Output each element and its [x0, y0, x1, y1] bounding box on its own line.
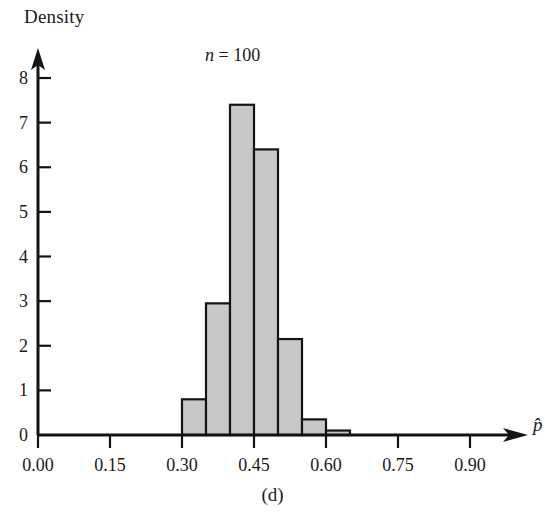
histogram-bar: [206, 303, 230, 435]
histogram-bar: [230, 105, 254, 435]
histogram-bar: [278, 339, 302, 435]
y-tick-label: 3: [2, 292, 28, 310]
x-tick-label: 0.75: [363, 456, 433, 474]
y-tick-label: 5: [2, 203, 28, 221]
histogram-plot: [0, 0, 545, 522]
panel-caption: (d): [0, 484, 545, 506]
x-tick-label: 0.60: [291, 456, 361, 474]
x-tick-label: 0.90: [435, 456, 505, 474]
y-tick-label: 1: [2, 381, 28, 399]
histogram-bar: [254, 149, 278, 435]
y-tick-label: 7: [2, 114, 28, 132]
histogram-figure: Density n = 100 p̂ 012345678 0.000.150.3…: [0, 0, 545, 522]
bars-group: [182, 105, 350, 435]
x-tick-label: 0.00: [3, 456, 73, 474]
y-tick-label: 0: [2, 426, 28, 444]
histogram-bar: [182, 399, 206, 435]
histogram-bar: [302, 419, 326, 435]
x-tick-label: 0.45: [219, 456, 289, 474]
x-tick-label: 0.15: [75, 456, 145, 474]
x-axis-variable-label: p̂: [533, 414, 543, 436]
y-tick-label: 8: [2, 69, 28, 87]
y-tick-label: 2: [2, 337, 28, 355]
y-tick-label: 6: [2, 158, 28, 176]
y-tick-label: 4: [2, 248, 28, 266]
x-tick-label: 0.30: [147, 456, 217, 474]
